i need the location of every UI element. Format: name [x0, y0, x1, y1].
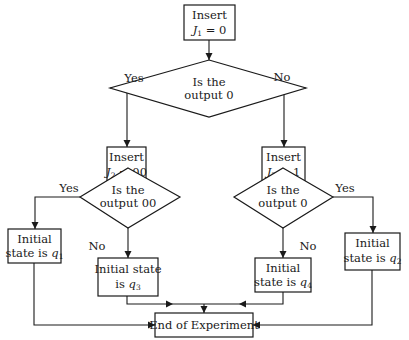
decision-label-line1: Is the: [193, 75, 226, 89]
node-decision-output-00: Is the output 00: [80, 168, 180, 228]
node-insert-j1: Insert J1 = 0: [184, 5, 235, 40]
node-label-state: state is q4: [254, 275, 312, 290]
node-state-q3: Initial state is q3: [95, 258, 162, 296]
decision-label-line1: Is the: [267, 183, 300, 197]
node-label: Initial state: [95, 262, 162, 276]
edge-label-no: No: [274, 70, 291, 84]
node-decision-output-0: Is the output 0: [110, 60, 306, 117]
edge-label-yes: Yes: [334, 181, 354, 195]
decision-label-line2: output 0: [184, 88, 233, 102]
decision-label-line2: output 00: [100, 196, 157, 210]
decision-label-line2: output 0: [258, 196, 307, 210]
node-formula: J1 = 0: [191, 23, 227, 38]
node-label: Initial: [266, 261, 301, 275]
node-label: Insert: [192, 8, 227, 22]
node-label-state: state is q1: [6, 246, 64, 261]
decision-label-line1: Is the: [112, 183, 145, 197]
edge-label-yes: Yes: [58, 181, 78, 195]
flowchart: Insert J1 = 0 Is the output 0 Yes No Ins…: [0, 0, 409, 340]
edge-label-yes: Yes: [123, 71, 143, 85]
node-state-q2: Initial state is q2: [344, 233, 402, 270]
node-label: Insert: [266, 150, 301, 164]
node-state-q1: Initial state is q1: [6, 229, 64, 263]
node-end-of-experiment: End of Experiment: [149, 313, 259, 337]
node-label-state: state is q2: [344, 251, 402, 266]
edge-label-no: No: [89, 239, 106, 253]
node-label: Initial: [17, 232, 52, 246]
node-label: End of Experiment: [149, 318, 259, 332]
node-label: Initial: [355, 236, 390, 250]
node-label: Insert: [109, 150, 144, 164]
edge-label-no: No: [300, 239, 317, 253]
node-decision-output-0-right: Is the output 0: [234, 168, 333, 228]
node-state-q4: Initial state is q4: [254, 258, 312, 292]
